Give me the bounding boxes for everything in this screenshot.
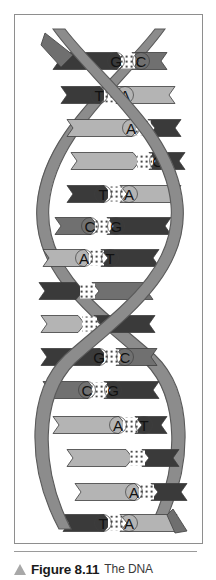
base-letter-right-t: T <box>105 250 114 267</box>
caption-text: The DNA <box>104 562 153 576</box>
base-letter-right-t: T <box>139 417 148 434</box>
base-pair-13 <box>67 450 179 467</box>
base-letter-left-g: G <box>93 349 105 366</box>
base-letter-right-g: G <box>107 382 119 399</box>
base-pair-14: A <box>75 484 187 501</box>
base-letter-right-a: A <box>124 186 134 203</box>
base-letter-left-c: C <box>82 382 93 399</box>
base-letter-right-c: C <box>120 349 131 366</box>
base-letter-left-a: A <box>79 250 89 267</box>
base-letter-left-a: A <box>129 484 139 501</box>
hydrogen-bond-13 <box>130 451 145 466</box>
figure-page: GCTAAGTACGATGCCGATATA Figure 8.11 The DN… <box>0 0 216 580</box>
base-left-g <box>67 450 133 467</box>
base-letter-right-c: C <box>136 53 147 70</box>
base-pair-7: AT <box>43 250 159 267</box>
dna-double-helix-illustration: GCTAAGTACGATGCCGATATA <box>15 15 202 543</box>
base-pair-5: TA <box>67 186 181 203</box>
base-left-c <box>71 153 140 170</box>
triangle-up-icon <box>14 564 26 575</box>
base-pair-3: A <box>67 120 181 137</box>
base-letter-right-a: A <box>124 515 134 532</box>
base-letter-left-t: T <box>98 515 107 532</box>
base-letter-left-t: T <box>94 87 103 104</box>
base-left-g <box>39 283 83 300</box>
base-letter-right-g: G <box>110 218 122 235</box>
base-pair-12: AT <box>53 417 167 434</box>
base-letter-left-a: A <box>113 417 123 434</box>
base-pair-15: TA <box>63 515 177 532</box>
base-pair-6: CG <box>55 218 171 235</box>
caption-divider <box>14 551 197 552</box>
base-letter-left-g: G <box>110 53 122 70</box>
hydrogen-bond-8 <box>80 284 95 299</box>
figure-caption: Figure 8.11 The DNA <box>14 560 210 578</box>
caption-figure-number: Figure 8.11 <box>31 562 99 577</box>
base-letter-left-c: C <box>85 218 96 235</box>
base-left-t <box>41 316 85 333</box>
dna-figure-panel: GCTAAGTACGATGCCGATATA <box>14 14 203 544</box>
base-letter-left-t: T <box>98 186 107 203</box>
